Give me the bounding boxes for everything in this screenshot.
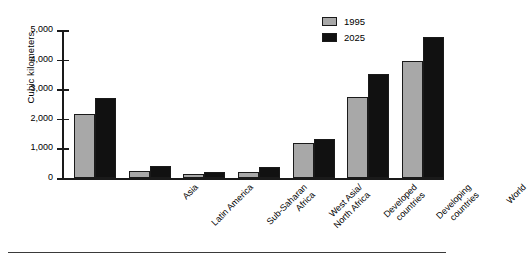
bar-1995-4 <box>238 172 259 178</box>
y-tick-label: 3,000 <box>11 83 53 93</box>
y-axis-line <box>62 30 64 178</box>
x-axis-line <box>62 178 444 180</box>
bar-1995-5 <box>293 143 314 178</box>
legend-label-1995: 1995 <box>344 16 365 27</box>
legend-item-1995: 1995 <box>322 16 365 27</box>
plot-area: 5,0004,0003,0002,0001,0000 <box>62 30 444 178</box>
bar-group <box>238 30 280 178</box>
legend-swatch-icon-1995 <box>322 17 337 26</box>
y-tick-label: 2,000 <box>11 113 53 123</box>
y-tick-label: 0 <box>11 172 53 182</box>
bar-1995-7 <box>402 61 423 178</box>
bar-1995-2 <box>129 171 150 178</box>
bar-2025-7 <box>423 37 444 178</box>
y-tick-mark <box>57 30 69 32</box>
footer-divider <box>8 252 446 253</box>
bar-2025-2 <box>150 166 171 178</box>
bar-1995-1 <box>74 114 95 178</box>
y-tick-mark <box>57 60 69 62</box>
legend-swatch-icon-2025 <box>322 33 337 42</box>
bar-2025-1 <box>95 98 116 178</box>
bar-group <box>74 30 116 178</box>
y-tick-mark <box>57 148 69 150</box>
bar-group <box>183 30 225 178</box>
y-tick-label: 1,000 <box>11 142 53 152</box>
y-tick-mark <box>57 119 69 121</box>
bar-group <box>293 30 335 178</box>
bar-group <box>347 30 389 178</box>
bar-2025-6 <box>368 74 389 178</box>
bar-group <box>402 30 444 178</box>
y-tick-label: 5,000 <box>11 24 53 34</box>
legend-item-2025: 2025 <box>322 32 365 43</box>
legend-label-2025: 2025 <box>344 32 365 43</box>
bar-1995-3 <box>183 174 204 178</box>
legend: 1995 2025 <box>322 16 365 48</box>
bar-1995-6 <box>347 97 368 178</box>
bar-2025-5 <box>314 139 335 178</box>
bar-2025-4 <box>259 167 280 178</box>
y-tick-mark <box>57 178 69 180</box>
bar-group <box>129 30 171 178</box>
y-tick-label: 4,000 <box>11 54 53 64</box>
bar-2025-3 <box>204 172 225 178</box>
y-tick-mark <box>57 89 69 91</box>
